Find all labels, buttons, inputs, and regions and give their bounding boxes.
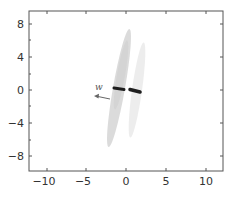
class-1-projection	[114, 88, 124, 90]
svg-text:4: 4	[17, 51, 24, 64]
svg-text:5: 5	[163, 175, 170, 188]
svg-text:0: 0	[17, 84, 24, 97]
w-label: w	[95, 82, 103, 92]
svg-text:−10: −10	[32, 175, 55, 188]
svg-text:−4: −4	[8, 117, 24, 130]
scatter-chart: w 8 4 0 −4 −8 −10 −5 0 5 10	[0, 0, 236, 198]
svg-text:10: 10	[199, 175, 213, 188]
svg-text:0: 0	[123, 175, 130, 188]
svg-text:−5: −5	[75, 175, 91, 188]
svg-text:8: 8	[17, 18, 24, 31]
x-tick-labels: −10 −5 0 5 10	[32, 175, 213, 188]
svg-text:−8: −8	[8, 150, 24, 163]
class-2-projection	[130, 90, 140, 93]
y-tick-labels: 8 4 0 −4 −8	[8, 18, 24, 163]
